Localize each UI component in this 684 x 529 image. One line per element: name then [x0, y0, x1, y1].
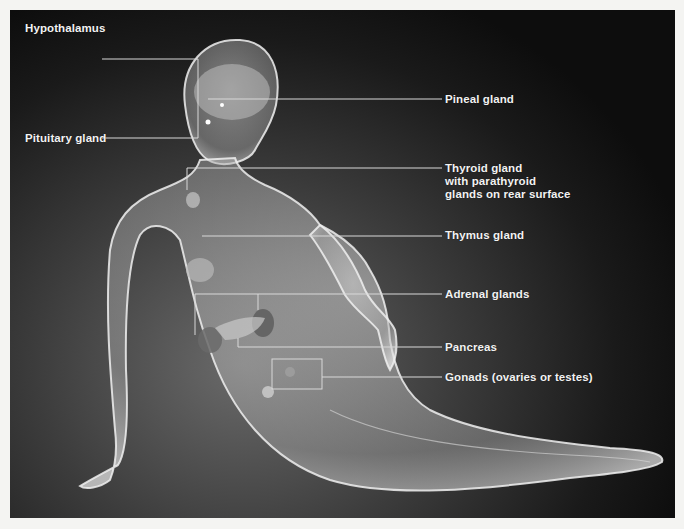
cropped-caption	[10, 523, 310, 529]
label-thyroid-line-3: glands on rear surface	[445, 188, 571, 201]
label-thyroid-line-2: with parathyroid	[445, 175, 536, 188]
label-pituitary-gland: Pituitary gland	[25, 132, 106, 145]
illustration-frame: Hypothalamus Pituitary gland Pineal glan…	[10, 10, 675, 518]
label-hypothalamus: Hypothalamus	[25, 22, 105, 35]
label-gonads: Gonads (ovaries or testes)	[445, 371, 593, 384]
body-silhouette	[80, 40, 662, 491]
label-adrenal-glands: Adrenal glands	[445, 288, 529, 301]
label-thyroid-line-1: Thyroid gland	[445, 162, 522, 175]
label-pancreas: Pancreas	[445, 341, 497, 354]
label-thymus-gland: Thymus gland	[445, 229, 524, 242]
endocrine-figure-illustration	[10, 10, 675, 518]
brain	[194, 64, 270, 120]
label-pineal-gland: Pineal gland	[445, 93, 514, 106]
